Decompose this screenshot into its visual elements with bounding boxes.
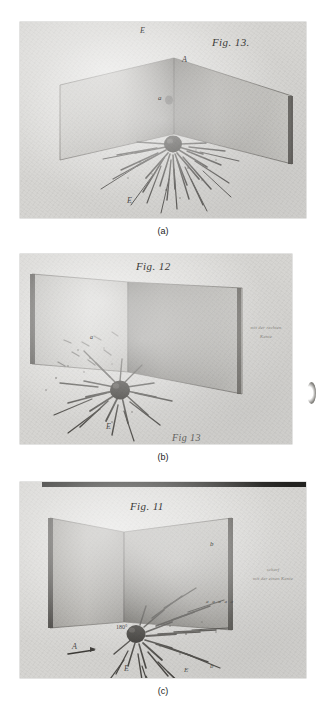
label-a-series-c: a a a a a (206, 599, 234, 604)
label-E-top-a: E (140, 26, 145, 35)
label-b-c: b (210, 662, 214, 670)
label-A-a: A (182, 55, 187, 64)
plate-image-a: Fig. 13. E A a E (20, 22, 306, 218)
caption-a: (a) (0, 226, 326, 236)
plate-image-b: Fig. 12 a E Fig 13 mit der rechten Kante (20, 254, 292, 444)
label-E-b: E (106, 422, 111, 431)
label-E-bottom-a: E (127, 196, 132, 205)
handwritten-note-c-line1: scharf (267, 567, 280, 572)
figure-label-11: Fig. 11 (130, 500, 164, 512)
handwritten-note-c-line2: mit der einen Kante (253, 576, 293, 581)
figure-label-13: Fig. 13. (212, 36, 250, 48)
handwritten-note-b: mit der rechten Kante (238, 324, 292, 341)
scene-a (20, 22, 306, 218)
caption-c: (c) (0, 686, 326, 696)
plate-image-c: Fig. 11 b 180° A E E b a a a a a scharf … (20, 482, 306, 678)
figure-panel-c: Fig. 11 b 180° A E E b a a a a a scharf … (0, 474, 326, 708)
label-x-c: b (210, 540, 214, 548)
handwritten-note-c: scharf mit der einen Kante (242, 566, 304, 583)
handwritten-note-b-line1: mit der rechten (251, 325, 282, 330)
adjacent-plate-fragment (307, 382, 316, 404)
figure-panel-a: Fig. 13. E A a E (a) (0, 0, 326, 240)
caption-b: (b) (0, 452, 326, 462)
figure-label-13-cropped: Fig 13 (172, 432, 201, 443)
scene-b (20, 254, 292, 444)
label-a-b: a (90, 334, 93, 340)
figure-panel-b: Fig. 12 a E Fig 13 mit der rechten Kante… (0, 240, 326, 474)
label-a-a: a (158, 94, 162, 102)
label-A-c: A (72, 642, 77, 651)
figure-label-12: Fig. 12 (136, 260, 171, 272)
handwritten-note-b-line2: Kante (260, 334, 272, 339)
label-angle-180-c: 180° (116, 624, 127, 630)
figure-page: Fig. 13. E A a E (a) (0, 0, 326, 708)
label-E-right-c: E (184, 666, 188, 674)
label-E-left-c: E (124, 664, 129, 673)
